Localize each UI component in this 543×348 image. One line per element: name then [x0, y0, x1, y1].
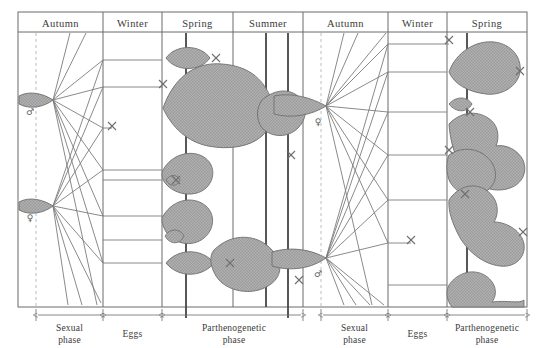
phase-label-eggs-2: Eggs	[408, 329, 428, 339]
season-label-autumn-2: Autumn	[327, 18, 364, 29]
aphid-life-cycle-figure: Autumn Winter Spring Summer Autumn Winte…	[0, 0, 543, 348]
season-label-spring-1: Spring	[182, 18, 213, 29]
phase-label-partheno-1-line1: Parthenogenetic	[202, 323, 266, 333]
season-label-autumn-1: Autumn	[42, 18, 79, 29]
life-cycle-svg: Autumn Winter Spring Summer Autumn Winte…	[0, 0, 543, 348]
female-symbol: ♀	[27, 213, 34, 223]
phase-label-partheno-2-line2: phase	[476, 335, 499, 345]
season-label-summer: Summer	[249, 18, 287, 29]
phase-label-sexual-2-line2: phase	[343, 335, 366, 345]
season-label-spring-2: Spring	[472, 18, 503, 29]
phase-label-partheno-1-line2: phase	[223, 335, 246, 345]
season-label-winter-1: Winter	[117, 18, 148, 29]
season-label-winter-2: Winter	[402, 18, 433, 29]
male-symbol: ♂	[314, 269, 322, 279]
phase-label-sexual-1-line2: phase	[58, 335, 81, 345]
male-symbol: ♂	[26, 107, 34, 117]
phase-label-sexual-1-line1: Sexual	[56, 323, 83, 333]
phase-label-eggs-1: Eggs	[123, 329, 143, 339]
phase-label-partheno-2-line1: Parthenogenetic	[455, 323, 519, 333]
female-symbol: ♀	[315, 117, 322, 127]
phase-label-sexual-2-line1: Sexual	[341, 323, 368, 333]
